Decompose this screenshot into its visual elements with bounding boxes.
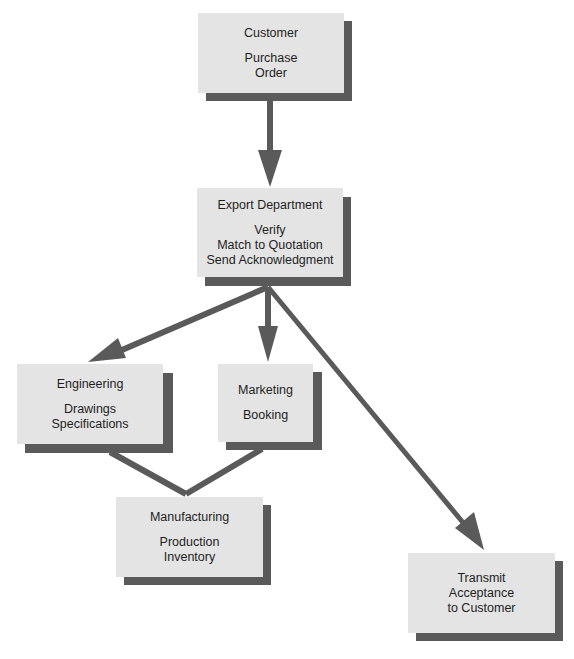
box: Transmit Acceptance to Customer (408, 553, 555, 633)
node-line: Inventory (160, 550, 220, 565)
box: Marketing Booking (218, 364, 313, 442)
node-title: Engineering (57, 377, 124, 392)
node-engineering: Engineering Drawings Specifications (17, 364, 163, 444)
line-engineering-to-manufacturing (110, 452, 186, 494)
node-line: Acceptance (447, 586, 515, 601)
node-title: Customer (244, 26, 298, 41)
line-marketing-to-manufacturing (186, 449, 262, 494)
node-line: Order (245, 66, 298, 81)
arrow-customer-to-export (258, 101, 282, 187)
node-export-department: Export Department Verify Match to Quotat… (197, 188, 343, 277)
node-line: Transmit (447, 571, 515, 586)
node-title: Export Department (218, 198, 323, 213)
node-transmit-acceptance: Transmit Acceptance to Customer (408, 553, 555, 633)
node-title: Marketing (238, 383, 293, 398)
node-customer: Customer Purchase Order (198, 13, 344, 93)
node-line: Production (160, 535, 220, 550)
node-manufacturing: Manufacturing Production Inventory (116, 497, 263, 577)
node-line: Verify (206, 223, 333, 238)
node-line: Purchase (245, 51, 298, 66)
node-line: Booking (243, 408, 288, 423)
box: Manufacturing Production Inventory (116, 497, 263, 577)
node-line: Drawings (51, 402, 128, 417)
box: Engineering Drawings Specifications (17, 364, 163, 444)
node-line: to Customer (447, 601, 515, 616)
node-line: Match to Quotation (206, 238, 333, 253)
node-title: Manufacturing (150, 510, 229, 525)
arrow-export-to-engineering (88, 287, 268, 362)
box: Export Department Verify Match to Quotat… (197, 188, 343, 277)
node-line: Specifications (51, 417, 128, 432)
node-marketing: Marketing Booking (218, 364, 313, 442)
box: Customer Purchase Order (198, 13, 344, 93)
node-line: Send Acknowledgment (206, 253, 333, 268)
